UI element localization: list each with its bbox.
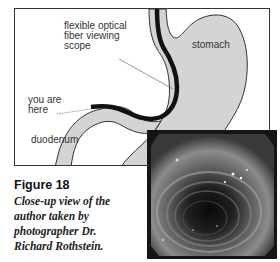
scope-label: flexible optical fiber viewing scope — [64, 21, 127, 51]
caption-line-3: photographer Dr. — [14, 224, 144, 239]
here-leader-line — [57, 109, 91, 114]
you-are-here-label: you are here — [28, 95, 61, 115]
endoscopy-photo — [147, 130, 277, 259]
caption-line-4: Richard Rothstein. — [14, 239, 144, 254]
caption-line-1: Close-up view of the — [14, 194, 144, 209]
figure-caption: Figure 18 Close-up view of the author ta… — [14, 178, 144, 254]
caption-line-2: author taken by — [14, 209, 144, 224]
scope-label-line-3: scope — [64, 41, 127, 51]
endoscopic-view-image — [147, 130, 277, 259]
stomach-label: stomach — [192, 40, 230, 50]
duodenum-label: duodenum — [31, 135, 78, 145]
here-label-line-2: here — [28, 105, 61, 115]
figure-title: Figure 18 — [14, 178, 144, 192]
